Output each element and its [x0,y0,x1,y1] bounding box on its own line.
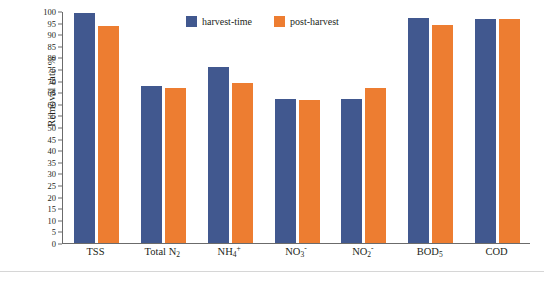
x-axis-tick-label: NH4+ [218,246,241,257]
bar-post-harvest-NO3- [299,100,320,243]
x-axis-tick-label: COD [485,246,507,257]
x-axis-tick-label: TSS [86,246,104,257]
y-axis-tick-label: 60 [48,101,57,109]
y-axis-tick-label: 40 [48,147,57,155]
bar-post-harvest-COD [499,19,520,243]
y-axis-tick-label: 55 [48,112,57,120]
y-axis-tick-label: 75 [48,66,57,74]
plot-area [62,12,530,244]
y-axis-tick-label: 35 [48,159,57,167]
y-axis-tick-label: 95 [48,20,57,28]
bar-harvest-time-TSS [74,13,95,243]
x-axis-tick-label: NO3- [285,246,306,257]
bar-post-harvest-BOD5 [432,25,453,243]
bar-harvest-time-NO3- [275,99,296,243]
x-axis-tick-label: Total N2 [145,246,180,257]
legend-item-post-harvest: post-harvest [274,16,339,27]
x-axis-labels: TSSTotal N2NH4+NO3-NO2-BOD5COD [62,246,530,268]
y-axis-tick-label: 5 [52,228,56,236]
bar-group [141,12,186,243]
bar-harvest-time-NO2- [341,99,362,243]
bar-post-harvest-NH4+ [232,83,253,243]
y-axis-tick-label: 65 [48,89,57,97]
y-axis-tick-label: 0 [52,240,56,248]
y-axis-tick-label: 70 [48,78,57,86]
y-axis-tick-label: 80 [48,54,57,62]
legend-label: post-harvest [290,16,339,27]
page-divider [0,271,544,272]
y-axis-tick-label: 25 [48,182,57,190]
legend-item-harvest-time: harvest-time [186,16,252,27]
legend-swatch-icon [274,16,285,27]
y-axis-tick-label: 85 [48,43,57,51]
y-axis-tick-label: 30 [48,170,57,178]
bar-post-harvest-TSS [98,26,119,243]
bar-harvest-time-BOD5 [408,18,429,243]
legend-label: harvest-time [202,16,252,27]
legend-swatch-icon [186,16,197,27]
bar-group [208,12,253,243]
y-axis-tick-label: 20 [48,194,57,202]
bar-group [475,12,520,243]
bar-harvest-time-NH4+ [208,67,229,243]
y-axis-ticks: 0510152025303540455055606570758085909510… [0,12,62,244]
x-axis-tick-label: BOD5 [417,246,443,257]
bar-group [341,12,386,243]
bar-post-harvest-Total N2 [165,88,186,243]
bar-group [74,12,119,243]
bar-harvest-time-COD [475,19,496,243]
y-axis-tick-label: 100 [43,8,56,16]
chart-legend: harvest-time post-harvest [186,16,339,27]
bar-group [275,12,320,243]
bar-harvest-time-Total N2 [141,86,162,243]
y-axis-tick-label: 45 [48,136,57,144]
y-axis-tick-label: 50 [48,124,57,132]
y-axis-tick-label: 10 [48,217,57,225]
bar-chart: Removal rate % 0510152025303540455055606… [0,0,544,282]
x-axis-tick-label: NO2- [352,246,373,257]
y-axis-tick-label: 15 [48,205,57,213]
y-axis-tick-label: 90 [48,31,57,39]
bar-series-container [63,12,530,243]
bar-post-harvest-NO2- [365,88,386,243]
bar-group [408,12,453,243]
